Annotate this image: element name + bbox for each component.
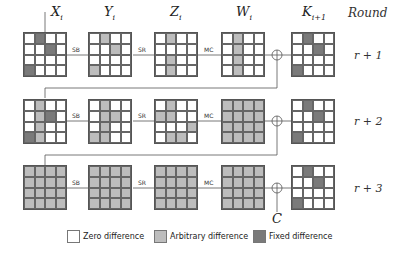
state-grid-k-round-1 bbox=[291, 32, 335, 77]
state-cell bbox=[110, 55, 121, 66]
state-cell bbox=[35, 55, 46, 66]
state-grid-x-round-3 bbox=[23, 165, 67, 210]
state-cell bbox=[303, 111, 314, 122]
state-cell bbox=[35, 166, 46, 177]
state-cell bbox=[222, 166, 233, 177]
state-cell bbox=[121, 55, 132, 66]
state-cell bbox=[243, 132, 254, 143]
state-cell bbox=[110, 166, 121, 177]
state-cell bbox=[121, 198, 132, 209]
state-cell bbox=[187, 198, 198, 209]
state-cell bbox=[56, 33, 67, 44]
state-cell bbox=[313, 198, 324, 209]
round-label-1: r + 1 bbox=[354, 49, 382, 62]
state-grid-w-round-3 bbox=[221, 165, 265, 210]
state-cell bbox=[324, 188, 335, 199]
state-cell bbox=[222, 122, 233, 133]
state-cell bbox=[313, 55, 324, 66]
state-cell bbox=[222, 132, 233, 143]
state-cell bbox=[110, 33, 121, 44]
state-cell bbox=[187, 177, 198, 188]
state-cell bbox=[222, 33, 233, 44]
state-cell bbox=[254, 100, 265, 111]
op-sr: SR bbox=[138, 46, 146, 53]
state-cell bbox=[254, 111, 265, 122]
state-cell bbox=[89, 33, 100, 44]
state-cell bbox=[166, 65, 177, 76]
state-cell bbox=[176, 177, 187, 188]
state-cell bbox=[222, 55, 233, 66]
state-cell bbox=[100, 65, 111, 76]
state-cell bbox=[313, 122, 324, 133]
state-grid-k-round-2 bbox=[291, 99, 335, 144]
state-cell bbox=[89, 44, 100, 55]
state-cell bbox=[100, 33, 111, 44]
state-cell bbox=[166, 166, 177, 177]
state-cell bbox=[100, 122, 111, 133]
state-cell bbox=[45, 44, 56, 55]
state-cell bbox=[166, 198, 177, 209]
state-cell bbox=[176, 55, 187, 66]
state-cell bbox=[56, 132, 67, 143]
state-cell bbox=[100, 188, 111, 199]
state-cell bbox=[324, 100, 335, 111]
state-cell bbox=[89, 55, 100, 66]
state-cell bbox=[155, 177, 166, 188]
label-w: Wi bbox=[236, 4, 252, 22]
state-cell bbox=[254, 177, 265, 188]
state-cell bbox=[155, 65, 166, 76]
state-cell bbox=[313, 65, 324, 76]
state-cell bbox=[233, 100, 244, 111]
state-cell bbox=[313, 188, 324, 199]
state-cell bbox=[24, 132, 35, 143]
state-cell bbox=[222, 65, 233, 76]
state-cell bbox=[233, 177, 244, 188]
state-cell bbox=[324, 44, 335, 55]
op-sb: SB bbox=[72, 179, 80, 186]
round-label-3: r + 3 bbox=[354, 182, 382, 195]
state-cell bbox=[222, 177, 233, 188]
state-cell bbox=[303, 55, 314, 66]
state-cell bbox=[155, 198, 166, 209]
state-cell bbox=[110, 188, 121, 199]
state-cell bbox=[45, 198, 56, 209]
state-cell bbox=[110, 100, 121, 111]
legend-arbitrary-label: Arbitrary difference bbox=[170, 232, 248, 241]
state-cell bbox=[303, 132, 314, 143]
state-cell bbox=[292, 122, 303, 133]
state-cell bbox=[313, 44, 324, 55]
state-cell bbox=[254, 33, 265, 44]
state-cell bbox=[292, 166, 303, 177]
state-cell bbox=[292, 55, 303, 66]
state-cell bbox=[187, 100, 198, 111]
state-cell bbox=[254, 44, 265, 55]
state-cell bbox=[254, 188, 265, 199]
state-cell bbox=[155, 111, 166, 122]
state-cell bbox=[254, 166, 265, 177]
label-k-sub: i+1 bbox=[312, 13, 326, 22]
state-cell bbox=[89, 111, 100, 122]
legend-arbitrary-swatch bbox=[154, 230, 167, 243]
state-cell bbox=[233, 132, 244, 143]
state-cell bbox=[56, 44, 67, 55]
state-grid-z-round-3 bbox=[154, 165, 198, 210]
state-cell bbox=[176, 132, 187, 143]
label-x-text: X bbox=[51, 4, 60, 19]
state-cell bbox=[187, 65, 198, 76]
state-cell bbox=[110, 122, 121, 133]
state-cell bbox=[35, 188, 46, 199]
state-cell bbox=[233, 188, 244, 199]
state-cell bbox=[89, 177, 100, 188]
state-cell bbox=[35, 177, 46, 188]
state-cell bbox=[176, 166, 187, 177]
state-cell bbox=[89, 100, 100, 111]
state-grid-z-round-2 bbox=[154, 99, 198, 144]
state-cell bbox=[100, 111, 111, 122]
state-cell bbox=[45, 100, 56, 111]
state-cell bbox=[324, 166, 335, 177]
state-cell bbox=[292, 132, 303, 143]
state-cell bbox=[89, 65, 100, 76]
state-cell bbox=[56, 65, 67, 76]
state-grid-x-round-1 bbox=[23, 32, 67, 77]
state-cell bbox=[110, 111, 121, 122]
